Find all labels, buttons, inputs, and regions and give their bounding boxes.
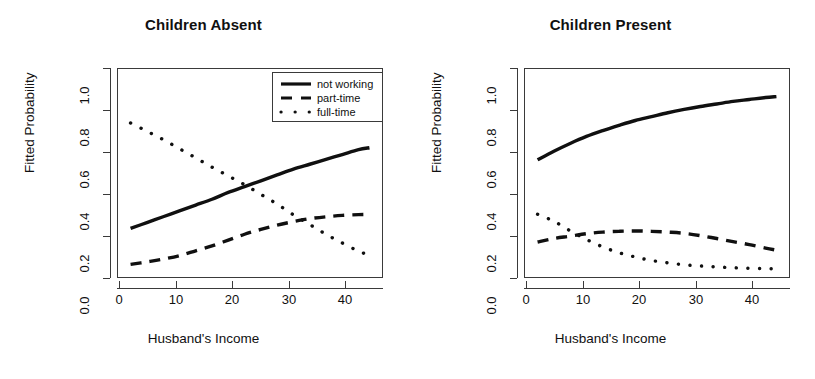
legend: not working part-time full-time — [272, 72, 383, 122]
y-axis-line — [110, 68, 111, 278]
x-tick-label-2: 20 — [212, 292, 252, 307]
x-tick-4 — [345, 281, 346, 288]
legend-label: full-time — [317, 106, 356, 118]
legend-label: not working — [317, 78, 373, 90]
y-axis-title: Fitted Probability — [22, 72, 37, 173]
y-axis-title: Fitted Probability — [429, 72, 444, 173]
figure-multinomial-fitted-probabilities: Children Absent Fitted Probability Husba… — [0, 0, 815, 379]
panel-children-present: Children Present Fitted Probability Husb… — [407, 0, 814, 379]
x-tick-3 — [289, 281, 290, 288]
legend-item-part-time: part-time — [273, 91, 382, 105]
x-tick-label-4: 40 — [325, 292, 365, 307]
legend-key-dotted-icon — [279, 106, 313, 118]
y-tick-label-2: 0.4 — [77, 202, 92, 242]
y-tick-label-4: 0.8 — [484, 118, 499, 158]
x-tick-label-2: 20 — [619, 292, 659, 307]
series-line-part-time — [538, 231, 777, 250]
y-axis-line — [517, 68, 518, 278]
y-tick-label-0: 0.0 — [484, 286, 499, 326]
panel-children-absent: Children Absent Fitted Probability Husba… — [0, 0, 407, 379]
x-tick-label-4: 40 — [732, 292, 772, 307]
y-tick-0 — [510, 278, 517, 279]
y-tick-label-1: 0.2 — [77, 244, 92, 284]
x-tick-label-1: 10 — [156, 292, 196, 307]
x-axis-line — [524, 288, 790, 289]
series-line-part-time — [131, 214, 370, 264]
y-tick-5 — [510, 68, 517, 69]
y-tick-label-2: 0.4 — [484, 202, 499, 242]
x-tick-4 — [752, 281, 753, 288]
x-tick-label-1: 10 — [563, 292, 603, 307]
y-tick-3 — [103, 152, 110, 153]
plot-area: not working part-time full-time — [117, 68, 383, 278]
x-tick-2 — [639, 281, 640, 288]
x-tick-1 — [176, 281, 177, 288]
y-tick-5 — [103, 68, 110, 69]
series-canvas — [524, 68, 790, 278]
legend-item-not-working: not working — [273, 77, 382, 91]
x-tick-label-0: 0 — [506, 292, 546, 307]
y-tick-2 — [510, 194, 517, 195]
y-tick-label-0: 0.0 — [77, 286, 92, 326]
y-tick-label-1: 0.2 — [484, 244, 499, 284]
x-tick-label-3: 30 — [269, 292, 309, 307]
y-tick-1 — [103, 236, 110, 237]
legend-key-dashed-icon — [279, 92, 313, 104]
x-tick-3 — [696, 281, 697, 288]
y-tick-label-3: 0.6 — [77, 160, 92, 200]
legend-label: part-time — [317, 92, 360, 104]
y-tick-4 — [510, 110, 517, 111]
x-tick-0 — [526, 281, 527, 288]
y-tick-label-3: 0.6 — [484, 160, 499, 200]
x-tick-0 — [119, 281, 120, 288]
series-line-full-time — [131, 123, 370, 255]
legend-key-solid-icon — [279, 78, 313, 90]
x-tick-label-3: 30 — [676, 292, 716, 307]
y-tick-label-5: 1.0 — [77, 76, 92, 116]
plot-area — [524, 68, 790, 278]
panel-title: Children Present — [407, 16, 814, 33]
y-tick-2 — [103, 194, 110, 195]
series-line-full-time — [538, 214, 777, 269]
y-tick-3 — [510, 152, 517, 153]
x-axis-title: Husband's Income — [0, 331, 407, 346]
x-axis-line — [117, 288, 383, 289]
y-tick-label-4: 0.8 — [77, 118, 92, 158]
y-tick-0 — [103, 278, 110, 279]
y-tick-1 — [510, 236, 517, 237]
x-tick-2 — [232, 281, 233, 288]
x-tick-label-0: 0 — [99, 292, 139, 307]
panel-title: Children Absent — [0, 16, 407, 33]
legend-item-full-time: full-time — [273, 105, 382, 119]
y-tick-label-5: 1.0 — [484, 76, 499, 116]
x-tick-1 — [583, 281, 584, 288]
y-tick-4 — [103, 110, 110, 111]
series-line-not-working — [538, 97, 777, 160]
x-axis-title: Husband's Income — [407, 331, 814, 346]
